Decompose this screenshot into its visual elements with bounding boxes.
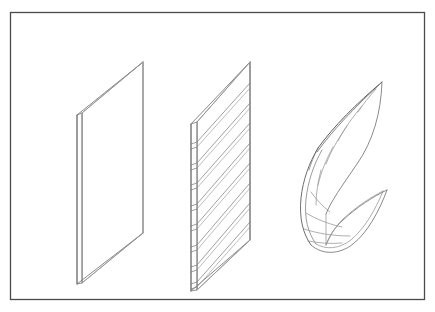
flat-plate-face [82,62,143,283]
slatted-panel [191,62,250,291]
flat-plate-panel [77,62,143,284]
curved-panel-face [302,82,386,251]
curved-warped-panel [300,82,387,252]
figure-root [0,0,435,312]
technical-drawing-canvas [0,0,435,312]
flat-plate-thickness-strip [77,113,82,284]
